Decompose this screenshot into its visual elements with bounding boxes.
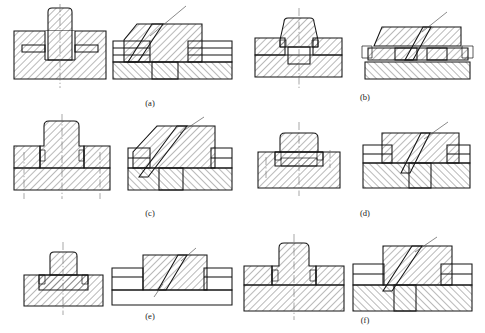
base-upper-left-hatch-c [14,146,40,168]
caption-f: (f) [361,315,370,325]
side-base-hatch-a [113,62,232,79]
drawing-canvas: (a) [0,0,485,333]
base-lower-hatch-b [255,55,342,77]
boss-hatch-e [50,252,77,275]
base-upper-left-hatch-f [244,266,272,285]
caption-b: (b) [360,92,370,102]
drawing-sheet: (a) [0,0,485,333]
seat-hatch-e [39,275,88,290]
base-upper-right-hatch-f [316,266,344,285]
caption-a: (a) [145,98,155,108]
caption-d: (d) [360,208,370,218]
side-body-hatch-d [382,133,459,163]
side-lower-hatch-f [353,285,472,311]
side-body-hatch-a [124,24,202,62]
base-upper-right-hatch-c [84,146,110,168]
caption-c: (c) [145,208,155,218]
caption-e: (e) [145,311,155,321]
side-bottom-hatch-b [365,62,470,79]
side-lower-hatch-d [363,163,470,188]
